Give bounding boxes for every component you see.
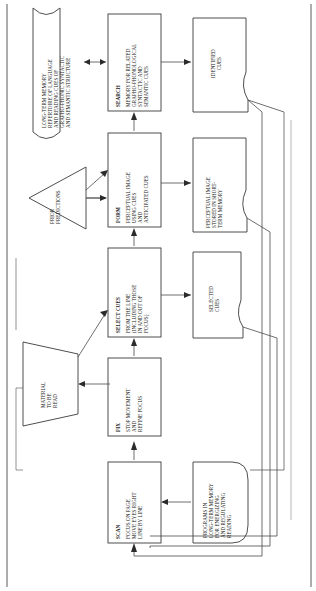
connector-left-bracket-lower (16, 388, 23, 470)
node-perceptual-image-shape (193, 138, 247, 232)
arrowhead-scan-right (161, 499, 168, 505)
arrowhead-scan-feedback-1 (131, 543, 137, 552)
connector-prior-form (86, 173, 105, 190)
node-selected-cues-shape (193, 252, 243, 338)
node-search-shape (108, 14, 161, 111)
arrowhead-select-bottom (131, 338, 137, 346)
arrowhead-perceptual (184, 180, 191, 186)
connector-material-select (78, 314, 105, 357)
node-long-term-memory-shape (33, 8, 60, 139)
node-prior-predictions-shape (29, 167, 86, 229)
arrowhead-to-ltm (84, 59, 90, 65)
arrowhead-search-bottom (131, 112, 137, 120)
connector-feedback-identified-programs (250, 112, 284, 470)
node-material-to-be-read-shape (23, 342, 78, 426)
arrowhead-select-material (100, 310, 108, 317)
diagram-canvas: LONG-TERM MEMORY REPERTOIRE OF LANGUAGE … (0, 0, 316, 591)
arrowhead-form-bottom (131, 228, 137, 236)
node-fix-shape (108, 358, 161, 436)
node-select-cues-shape (108, 248, 161, 337)
node-identified-cues-shape (193, 18, 248, 112)
node-form-shape (108, 133, 161, 227)
arrowhead-fix-bottom (131, 441, 137, 450)
node-scan-shape (108, 462, 161, 543)
node-programs-shape (193, 462, 248, 543)
arrowhead-to-search (100, 59, 106, 65)
connector-feedback-identified-programs-entry (248, 100, 284, 112)
flowchart-svg (0, 0, 316, 591)
arrowhead-select-prior (100, 195, 107, 201)
arrowhead-selected (184, 292, 191, 298)
arrowhead-identified (184, 59, 191, 65)
